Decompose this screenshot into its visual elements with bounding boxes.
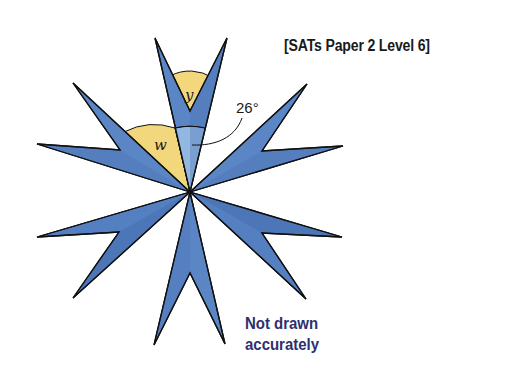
not-drawn-accurately-note: Not drawn accurately bbox=[245, 313, 319, 355]
source-label: [SATs Paper 2 Level 6] bbox=[284, 37, 430, 55]
note-line-1: Not drawn bbox=[245, 313, 319, 334]
star-arm-lower-right bbox=[190, 192, 342, 299]
star-arm-upper-right bbox=[190, 84, 343, 192]
angle-26-label: 26° bbox=[236, 99, 259, 116]
angle-w-label: w bbox=[154, 136, 167, 154]
star-center bbox=[188, 190, 192, 194]
angle-y-label: y bbox=[184, 86, 194, 104]
note-line-2: accurately bbox=[245, 334, 319, 355]
